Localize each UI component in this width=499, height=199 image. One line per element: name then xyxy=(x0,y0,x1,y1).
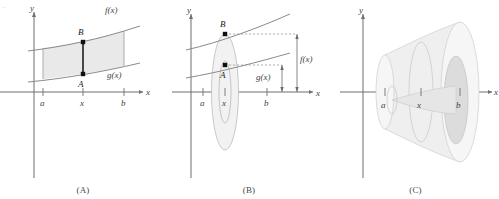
x-axis-arrow xyxy=(139,90,143,94)
dimension-arrow-g-bottom xyxy=(280,87,283,92)
panel-a-diagram: ·· x y B A f(x) g(x) xyxy=(0,0,166,185)
y-axis-label: y xyxy=(358,5,363,15)
point-b-label: B xyxy=(78,27,84,37)
dimension-arrow-f-top xyxy=(295,34,298,39)
panel-a: ·· x y B A f(x) g(x) xyxy=(0,0,166,199)
point-b-label: B xyxy=(220,19,226,29)
dimension-arrow-f-bottom xyxy=(295,87,298,92)
y-axis-label: y xyxy=(186,5,191,15)
y-axis-label: y xyxy=(29,3,34,13)
x-axis-label: x xyxy=(315,88,320,98)
panel-c-diagram: x y a x b xyxy=(332,0,499,185)
tick-label-x: x xyxy=(221,98,226,108)
x-axis-arrow xyxy=(309,90,313,94)
dimension-arrow-g-top xyxy=(280,65,283,70)
point-a-label: A xyxy=(219,70,226,80)
point-a-marker xyxy=(81,72,85,76)
curve-f-label: f(x) xyxy=(105,5,118,15)
panel-c-caption: (C) xyxy=(332,185,499,195)
tick-label-a: a xyxy=(200,98,205,108)
curve-f xyxy=(186,14,290,50)
dimension-label-g: g(x) xyxy=(256,72,271,82)
dimension-label-f: f(x) xyxy=(300,54,313,64)
tick-label-a: a xyxy=(381,100,386,110)
panel-b-caption: (B) xyxy=(166,185,332,195)
tick-label-x: x xyxy=(416,100,421,110)
panel-a-caption: (A) xyxy=(0,185,166,195)
x-axis-label: x xyxy=(493,87,498,97)
tick-label-x: x xyxy=(79,98,84,108)
point-b-marker xyxy=(223,32,227,36)
tick-label-b: b xyxy=(456,100,461,110)
point-a-label: A xyxy=(77,79,84,89)
stray-mark: ·· xyxy=(2,4,7,12)
point-b-marker xyxy=(81,40,85,44)
x-axis-label: x xyxy=(145,87,150,97)
panel-b: x y f(x) g(x) B A xyxy=(166,0,332,199)
tick-label-b: b xyxy=(121,98,126,108)
tick-label-a: a xyxy=(40,98,45,108)
point-a-marker xyxy=(223,63,227,67)
x-axis-arrow xyxy=(488,90,492,94)
tick-label-b: b xyxy=(264,98,269,108)
figure-solid-of-revolution: ·· x y B A f(x) g(x) xyxy=(0,0,499,199)
panel-c: x y a x b (C) xyxy=(332,0,499,199)
curve-g-label: g(x) xyxy=(107,70,122,80)
panel-b-diagram: x y f(x) g(x) B A xyxy=(166,0,332,185)
